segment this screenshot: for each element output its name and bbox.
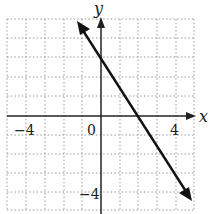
line-arrow-bottom-icon [179, 187, 192, 201]
origin-label: 0 [87, 122, 96, 138]
plotted-line [77, 21, 192, 201]
y-axis-label: y [93, 0, 104, 18]
x-axis-label: x [199, 107, 208, 126]
coordinate-plane: x y −4 0 4 −4 [0, 0, 212, 214]
x-tick-label-4: 4 [170, 122, 179, 138]
x-axis-arrow-icon [186, 112, 196, 120]
x-tick-label-neg4: −4 [14, 122, 35, 138]
y-tick-label-neg4: −4 [79, 186, 100, 202]
